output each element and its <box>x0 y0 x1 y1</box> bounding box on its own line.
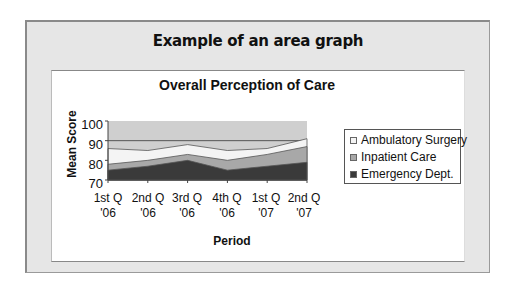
area-plot <box>104 119 314 191</box>
y-tick: 100 <box>77 117 103 132</box>
x-tick: 4th Q'06 <box>205 191 249 221</box>
chart-container: Overall Perception of Care Mean Score 10… <box>51 70 465 262</box>
legend-item-emergency-dept: Emergency Dept. <box>350 167 454 181</box>
x-tick: 2nd Q'06 <box>126 191 170 221</box>
legend-swatch-icon <box>350 171 357 178</box>
x-tick: 3rd Q'06 <box>165 191 209 221</box>
x-tick: 1st Q'06 <box>86 191 130 221</box>
legend-item-ambulatory-surgery: Ambulatory Surgery <box>350 133 467 147</box>
legend: Ambulatory Surgery Inpatient Care Emerge… <box>344 129 461 184</box>
legend-swatch-icon <box>350 154 357 161</box>
x-tick: 2nd Q'07 <box>282 191 326 221</box>
legend-item-inpatient-care: Inpatient Care <box>350 150 436 164</box>
y-tick: 70 <box>77 176 103 191</box>
legend-swatch-icon <box>350 137 357 144</box>
x-axis-label: Period <box>182 234 282 248</box>
figure-title: Example of an area graph <box>27 32 489 50</box>
chart-title: Overall Perception of Care <box>97 77 397 93</box>
figure-frame: Example of an area graph Overall Percept… <box>25 20 490 273</box>
y-tick: 80 <box>77 157 103 172</box>
y-tick: 90 <box>77 137 103 152</box>
